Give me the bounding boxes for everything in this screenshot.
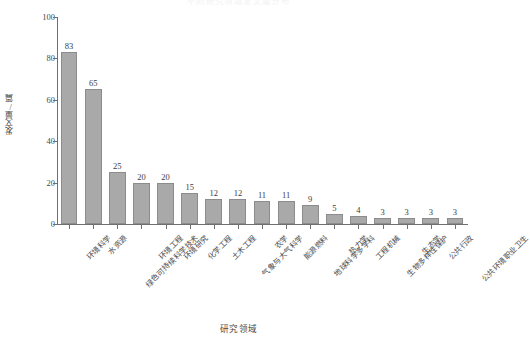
x-tick-mark xyxy=(310,225,311,229)
x-tick-mark xyxy=(190,225,191,229)
bar-value-label: 3 xyxy=(453,207,457,217)
x-category-label: 化学工程 xyxy=(204,232,234,262)
bar xyxy=(133,183,150,224)
plot-area: 836525202015121211119543333 xyxy=(57,17,467,224)
bar xyxy=(61,52,78,224)
y-tick-label: 20 xyxy=(0,178,55,188)
x-tick-mark xyxy=(262,225,263,229)
x-category-label: 工程机械 xyxy=(373,232,403,262)
x-tick-mark xyxy=(93,225,94,229)
bar xyxy=(278,201,295,224)
x-tick-mark xyxy=(431,225,432,229)
bar-value-label: 20 xyxy=(137,172,146,182)
y-tick-label: 100 xyxy=(0,12,55,22)
y-tick-label: 60 xyxy=(0,95,55,105)
bar xyxy=(422,218,439,224)
y-tick-mark xyxy=(53,224,57,225)
x-tick-mark xyxy=(117,225,118,229)
x-tick-mark xyxy=(334,225,335,229)
bar xyxy=(109,172,126,224)
bar xyxy=(374,218,391,224)
bar-value-label: 12 xyxy=(234,188,243,198)
x-tick-mark xyxy=(238,225,239,229)
bar-value-label: 83 xyxy=(65,41,74,51)
x-category-label: 公共环境职业卫生 xyxy=(478,232,530,284)
x-category-label: 公共行政 xyxy=(445,232,475,262)
bar-value-label: 9 xyxy=(308,194,312,204)
x-tick-mark xyxy=(141,225,142,229)
bar-value-label: 5 xyxy=(332,203,336,213)
bar xyxy=(229,199,246,224)
bar xyxy=(181,193,198,224)
bar xyxy=(302,205,319,224)
bar-value-label: 3 xyxy=(429,207,433,217)
bar xyxy=(350,216,367,224)
y-tick-label: 80 xyxy=(0,53,55,63)
x-tick-mark xyxy=(383,225,384,229)
y-tick-label: 40 xyxy=(0,136,55,146)
bar xyxy=(205,199,222,224)
bar-value-label: 15 xyxy=(185,182,194,192)
x-tick-mark xyxy=(69,225,70,229)
x-axis-label: 研究领域 xyxy=(0,322,477,334)
bar-value-label: 12 xyxy=(210,188,219,198)
bar xyxy=(398,218,415,224)
bar-value-label: 11 xyxy=(282,190,290,200)
x-tick-mark xyxy=(166,225,167,229)
bar-value-label: 20 xyxy=(161,172,170,182)
bar xyxy=(157,183,174,224)
x-tick-mark xyxy=(214,225,215,229)
y-tick-label: 0 xyxy=(0,219,55,229)
bar-value-label: 25 xyxy=(113,161,122,171)
x-tick-mark xyxy=(407,225,408,229)
x-tick-mark xyxy=(358,225,359,229)
bar xyxy=(326,214,343,224)
bar xyxy=(447,218,464,224)
bar xyxy=(254,201,271,224)
bar xyxy=(85,89,102,224)
x-category-label: 土木工程 xyxy=(228,232,258,262)
bar-value-label: 11 xyxy=(258,190,266,200)
bar-value-label: 4 xyxy=(356,205,360,215)
bar-value-label: 3 xyxy=(380,207,384,217)
x-tick-mark xyxy=(455,225,456,229)
x-category-label: 能源燃料 xyxy=(300,232,330,262)
bar-value-label: 65 xyxy=(89,78,98,88)
x-tick-mark xyxy=(286,225,287,229)
chart-title: 不同研究领域发文量分布 xyxy=(0,0,477,6)
bar-value-label: 3 xyxy=(405,207,409,217)
